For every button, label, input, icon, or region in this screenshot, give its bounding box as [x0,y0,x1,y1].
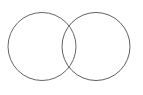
right-circle [62,13,130,81]
left-circle [8,13,76,81]
venn-diagram [0,0,143,95]
figure-canvas [0,0,143,95]
